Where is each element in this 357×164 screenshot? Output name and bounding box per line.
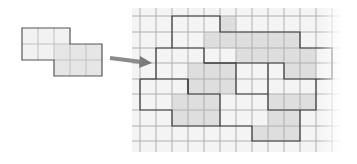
tiling-grid	[132, 8, 342, 152]
tessellation-figure	[0, 0, 357, 164]
source-tile	[22, 28, 102, 76]
